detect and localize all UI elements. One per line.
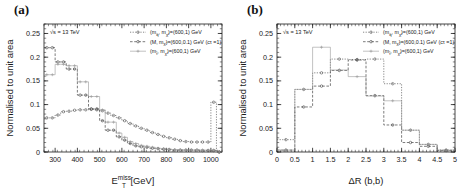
svg-text:0: 0 <box>269 148 273 157</box>
svg-text:4.5: 4.5 <box>432 155 442 164</box>
svg-text:4: 4 <box>417 155 421 164</box>
svg-text:300: 300 <box>49 155 61 164</box>
svg-text:ΔR (b,b): ΔR (b,b) <box>349 175 384 186</box>
panel-b-plot: 00.511.522.533.544.5500.050.10.150.20.25… <box>233 0 466 192</box>
svg-text:0.05: 0.05 <box>26 124 40 133</box>
svg-text:3: 3 <box>382 155 386 164</box>
svg-text:600: 600 <box>116 155 128 164</box>
panel-a: (a) 300400500600700800900100000.050.10.1… <box>0 0 233 192</box>
svg-text:0: 0 <box>275 155 279 164</box>
svg-text:0.2: 0.2 <box>30 53 40 62</box>
svg-text:0.1: 0.1 <box>263 100 273 109</box>
svg-text:0.25: 0.25 <box>259 29 273 38</box>
svg-text:400: 400 <box>71 155 83 164</box>
svg-text:500: 500 <box>94 155 106 164</box>
svg-text:√s = 13 TeV: √s = 13 TeV <box>50 29 80 35</box>
svg-text:2.5: 2.5 <box>361 155 371 164</box>
svg-text:0.05: 0.05 <box>259 124 273 133</box>
svg-text:0.15: 0.15 <box>259 76 273 85</box>
svg-text:0.5: 0.5 <box>290 155 300 164</box>
svg-text:0: 0 <box>36 148 40 157</box>
panel-b: (b) 00.511.522.533.544.5500.050.10.150.2… <box>233 0 466 192</box>
svg-text:700: 700 <box>138 155 150 164</box>
svg-text:800: 800 <box>160 155 172 164</box>
svg-text:0.15: 0.15 <box>26 76 40 85</box>
svg-text:Normalised to unit area: Normalised to unit area <box>4 39 15 137</box>
svg-text:2: 2 <box>346 155 350 164</box>
svg-text:0.25: 0.25 <box>26 29 40 38</box>
svg-text:EmissT [GeV]: EmissT [GeV] <box>112 174 155 189</box>
svg-text:Normalised to unit area: Normalised to unit area <box>237 39 248 137</box>
svg-text:1: 1 <box>311 155 315 164</box>
svg-text:0.1: 0.1 <box>30 100 40 109</box>
svg-text:5: 5 <box>453 155 457 164</box>
panel-a-plot: 300400500600700800900100000.050.10.150.2… <box>0 0 233 192</box>
svg-text:900: 900 <box>183 155 195 164</box>
svg-text:√s = 13 TeV: √s = 13 TeV <box>283 29 313 35</box>
figure-two-panel: (a) 300400500600700800900100000.050.10.1… <box>0 0 466 192</box>
svg-text:1000: 1000 <box>203 155 219 164</box>
svg-text:3.5: 3.5 <box>397 155 407 164</box>
svg-text:0.2: 0.2 <box>263 53 273 62</box>
svg-text:1.5: 1.5 <box>325 155 335 164</box>
